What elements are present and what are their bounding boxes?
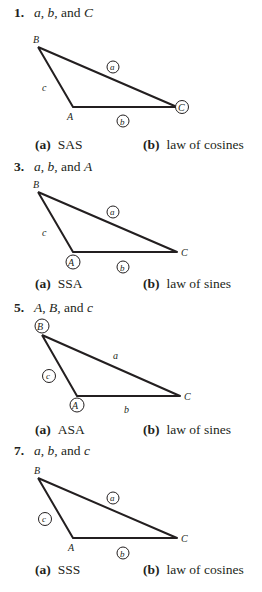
triangle-figure-7: B A C c a b bbox=[0, 445, 262, 570]
side-label-b: b bbox=[120, 549, 125, 559]
triangle-figure-1: B A C c a b bbox=[0, 0, 262, 140]
answer-a-7: (a)SSS bbox=[35, 562, 80, 578]
side-label-a: a bbox=[113, 350, 118, 361]
side-label-b: b bbox=[124, 404, 129, 415]
vertex-label-B: B bbox=[37, 321, 43, 332]
vertex-label-A: A bbox=[71, 400, 79, 411]
vertex-label-A: A bbox=[67, 257, 75, 268]
side-label-c: c bbox=[46, 371, 50, 381]
side-label-a: a bbox=[110, 62, 115, 72]
side-label-a: a bbox=[110, 493, 115, 503]
vertex-label-B: B bbox=[34, 465, 40, 476]
side-label-c: c bbox=[42, 82, 47, 93]
triangle-figure-5: B A C c a b bbox=[0, 290, 262, 425]
triangle-figure-3: B A C c a b bbox=[0, 145, 262, 280]
vertex-label-B: B bbox=[33, 34, 39, 45]
vertex-label-B: B bbox=[33, 179, 39, 190]
answer-b-5: (b)law of sines bbox=[143, 422, 231, 438]
vertex-label-C: C bbox=[178, 102, 185, 113]
vertex-label-A: A bbox=[67, 542, 75, 553]
side-label-b: b bbox=[120, 117, 125, 127]
side-label-a: a bbox=[110, 207, 115, 217]
side-label-c: c bbox=[42, 514, 46, 524]
answer-b-7: (b)law of cosines bbox=[143, 562, 244, 578]
vertex-label-A: A bbox=[66, 111, 74, 122]
vertex-label-C: C bbox=[184, 391, 191, 402]
side-label-c: c bbox=[42, 227, 47, 238]
vertex-label-C: C bbox=[181, 533, 188, 544]
side-label-b: b bbox=[120, 263, 125, 273]
vertex-label-C: C bbox=[181, 247, 188, 258]
answer-a-5: (a)ASA bbox=[35, 422, 85, 438]
